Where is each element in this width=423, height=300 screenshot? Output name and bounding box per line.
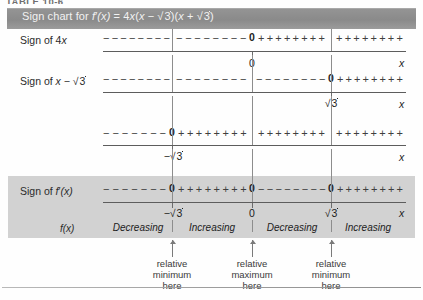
plus-sign-glyph: + (346, 73, 352, 86)
axis-label-x: x (399, 98, 404, 110)
minus-sign-glyph: − (163, 32, 169, 45)
annotation-text-line: relative (296, 258, 366, 269)
sign-strip-f-prime: −−−−−−−++++++++−−−−−−−−++++++++000 (103, 183, 406, 196)
plus-sign-glyph: + (231, 183, 237, 196)
row-label-f-prime: Sign of f′(x) (20, 185, 73, 197)
axis-line-f-prime (103, 202, 406, 203)
plus-sign-glyph: + (318, 127, 324, 140)
minus-sign-glyph: − (129, 73, 135, 86)
annotation-text-line: minimum (296, 269, 366, 280)
plus-sign-glyph: + (371, 73, 377, 86)
header-equals: = 4 (110, 10, 129, 22)
behavior-segment-label: Increasing (333, 222, 403, 233)
minus-sign-glyph: − (213, 32, 219, 45)
minus-sign-glyph: − (163, 73, 169, 86)
minus-sign-glyph: − (141, 183, 147, 196)
minus-sign-glyph: − (103, 73, 109, 86)
axis-tick-label-zero: 0 (237, 207, 267, 219)
axis-label-x: x (399, 57, 404, 69)
radical-icon: √3 (170, 207, 183, 219)
plus-sign-glyph: + (301, 127, 307, 140)
minus-sign-glyph: − (150, 183, 156, 196)
plus-sign-glyph: + (293, 127, 299, 140)
chart-divider-line (331, 149, 332, 202)
plus-sign-glyph: + (275, 32, 281, 45)
axis-line-4x (103, 51, 406, 52)
page-title: Sign chart for f′(x) = 4x(x − √3)(x + √3… (22, 10, 214, 22)
plus-sign-glyph: + (337, 73, 343, 86)
minus-sign-glyph: − (194, 32, 200, 45)
plus-sign-glyph: + (371, 183, 377, 196)
plus-sign-glyph: + (178, 183, 184, 196)
plus-sign-glyph: + (363, 183, 369, 196)
plus-sign-glyph: + (396, 32, 402, 45)
plus-sign-glyph: + (388, 127, 394, 140)
minus-sign-glyph: − (150, 127, 156, 140)
minus-sign-glyph: − (185, 73, 191, 86)
radical-icon: √3 (157, 10, 170, 22)
plus-sign-glyph: + (187, 127, 193, 140)
behavior-segment-label: Increasing (177, 222, 247, 233)
behavior-divider-1 (172, 220, 173, 232)
plus-sign-glyph: + (231, 127, 237, 140)
minus-sign-glyph: − (176, 73, 182, 86)
minus-sign-glyph: − (203, 32, 209, 45)
plus-sign-glyph: + (397, 183, 403, 196)
plus-sign-glyph: + (301, 32, 307, 45)
axis-line-x-minus-sqrt3 (103, 92, 406, 93)
plus-sign-glyph: + (293, 32, 299, 45)
minus-sign-glyph: − (319, 73, 325, 86)
minus-sign-glyph: − (103, 183, 109, 196)
plus-sign-glyph: + (371, 127, 377, 140)
plus-sign-glyph: + (388, 73, 394, 86)
minus-sign-glyph: − (293, 183, 299, 196)
minus-sign-glyph: − (256, 73, 262, 86)
chart-divider-line (252, 55, 253, 92)
header-minus: − (145, 10, 158, 22)
plus-sign-glyph: + (196, 183, 202, 196)
axis-tick-label-neg-sqrt3: −√3 (154, 207, 192, 219)
plus-sign-glyph: + (258, 32, 264, 45)
minus-sign-glyph: − (274, 73, 280, 86)
minus-sign-glyph: − (131, 127, 137, 140)
zero-marker: 0 (249, 31, 255, 44)
plus-sign-glyph: + (353, 32, 359, 45)
minus-sign-glyph: − (276, 183, 282, 196)
minus-sign-glyph: − (131, 183, 137, 196)
radical-icon: √3 (73, 75, 86, 87)
axis-tick-label-neg-sqrt3: −√3 (154, 150, 192, 162)
minus-sign-glyph: − (155, 32, 161, 45)
minus-sign-glyph: − (146, 32, 152, 45)
minus-sign-glyph: − (283, 73, 289, 86)
minus-sign-glyph: − (203, 73, 209, 86)
header-arg: (x) (97, 10, 110, 22)
chart-divider-line (172, 96, 173, 145)
chart-divider-line (172, 29, 173, 51)
plus-sign-glyph: + (196, 127, 202, 140)
plus-sign-glyph: + (362, 127, 368, 140)
minus-sign-glyph: − (146, 73, 152, 86)
minus-sign-glyph: − (301, 73, 307, 86)
behavior-label-arg: (x) (63, 223, 75, 234)
minus-sign-glyph: − (231, 32, 237, 45)
behavior-row-label: f(x) (60, 223, 74, 234)
radical-icon: √3 (325, 207, 338, 219)
plus-sign-glyph: + (214, 127, 220, 140)
minus-sign-glyph: − (112, 127, 118, 140)
radical-icon: √3 (197, 10, 210, 22)
minus-sign-glyph: − (120, 73, 126, 86)
minus-sign-glyph: − (258, 183, 264, 196)
plus-sign-glyph: + (336, 127, 342, 140)
plus-sign-glyph: + (379, 32, 385, 45)
minus-sign-glyph: − (103, 127, 109, 140)
annotation-arrow-icon (331, 240, 332, 257)
annotation-text-line: minimum (137, 269, 207, 280)
annotation-text-line: maximum (217, 269, 287, 280)
minus-sign-glyph: − (213, 73, 219, 86)
plus-sign-glyph: + (187, 183, 193, 196)
minus-sign-glyph: − (160, 183, 166, 196)
minus-sign-glyph: − (112, 183, 118, 196)
annotation-arrow-icon (252, 240, 253, 257)
plus-sign-glyph: + (337, 183, 343, 196)
plus-sign-glyph: + (379, 127, 385, 140)
